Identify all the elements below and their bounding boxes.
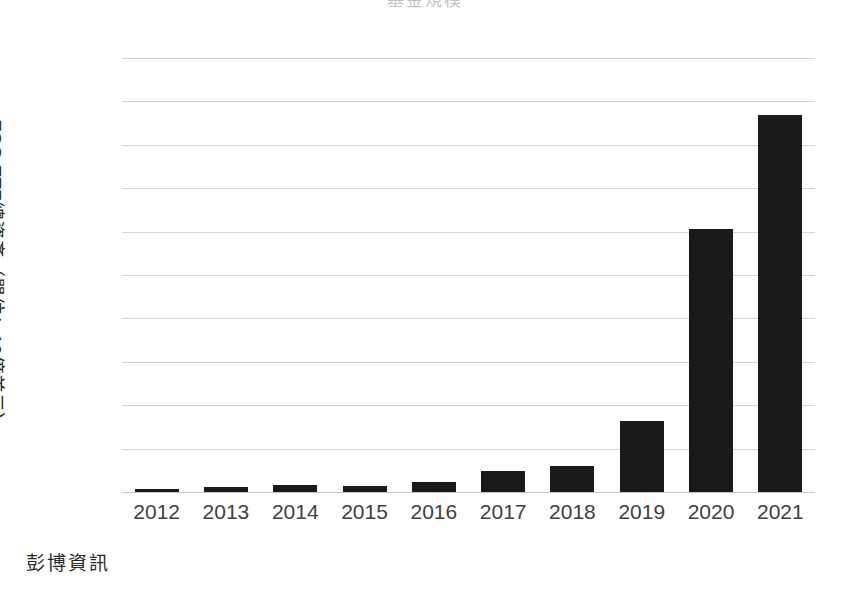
x-axis-tick-label: 2017 bbox=[463, 500, 543, 524]
bar bbox=[550, 466, 594, 492]
x-axis-tick-label: 2012 bbox=[117, 500, 197, 524]
bar bbox=[343, 486, 387, 492]
bar bbox=[758, 115, 802, 492]
x-axis-tick-label: 2015 bbox=[325, 500, 405, 524]
bar bbox=[412, 482, 456, 492]
source-note: 彭博資訊 bbox=[26, 548, 110, 575]
bar bbox=[135, 489, 179, 492]
y-axis-title: ESG ETF總資產（單位：10億美元） bbox=[0, 58, 14, 492]
plot-area: 0102030405060708090100 bbox=[122, 58, 815, 492]
x-axis-tick-label: 2016 bbox=[394, 500, 474, 524]
x-axis-tick-label: 2018 bbox=[532, 500, 612, 524]
bar bbox=[204, 487, 248, 492]
bar bbox=[481, 471, 525, 492]
x-axis-tick-label: 2019 bbox=[602, 500, 682, 524]
bar bbox=[689, 229, 733, 492]
x-axis-tick-label: 2013 bbox=[186, 500, 266, 524]
bar bbox=[273, 485, 317, 492]
x-axis-tick-label: 2021 bbox=[740, 500, 820, 524]
x-axis-tick-label: 2020 bbox=[671, 500, 751, 524]
x-axis-tick-label: 2014 bbox=[255, 500, 335, 524]
chart-figure: 基金規模 ESG ETF總資產（單位：10億美元） 01020304050607… bbox=[0, 0, 850, 592]
bar bbox=[620, 421, 664, 492]
gridline bbox=[122, 492, 815, 493]
chart-title: 基金規模 bbox=[0, 0, 850, 11]
x-axis-tick-labels: 2012201320142015201620172018201920202021 bbox=[122, 500, 815, 530]
bar-series bbox=[122, 58, 815, 492]
